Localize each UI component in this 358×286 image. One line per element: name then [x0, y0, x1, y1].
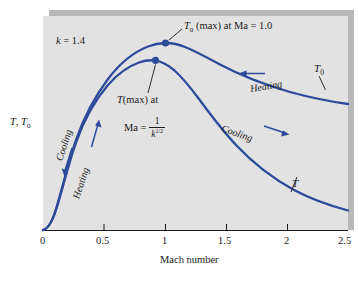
x-tick-label-0-5: 0.5	[96, 236, 109, 247]
annotation-T0-max: T0 (max) at Ma = 1.0	[184, 21, 272, 34]
parameter-k-label: k = 1.4	[56, 36, 85, 47]
annotation-Ma-equals: Ma =	[124, 122, 149, 133]
arrow-heating-subsonic	[92, 120, 102, 148]
annotation-T0-max-text: (max) at Ma = 1.0	[193, 20, 272, 31]
figure-rayleigh-line-temperature-chart: T, T0 k = 1.4 T0 (max) at Ma = 1.0 T(max…	[0, 0, 358, 286]
curve-stagnation-temperature-T0	[43, 43, 348, 230]
x-tick-label-0: 0	[40, 236, 45, 247]
x-tick-label-1: 1	[162, 236, 167, 247]
annotation-Ma-denominator-exponent: 1/2	[155, 128, 163, 134]
curve-static-temperature-T	[43, 60, 348, 230]
curve-label-T0: T0	[314, 63, 324, 77]
annotation-Ma-formula: Ma = 1k1/2	[124, 118, 165, 140]
annotation-Ma-fraction: 1k1/2	[149, 117, 165, 139]
y-axis-title-T0-sub: 0	[27, 122, 31, 130]
annotation-Ma-denominator: k1/2	[149, 127, 165, 140]
annotation-T-max-text: (max) at	[123, 94, 158, 105]
curve-label-T0-sub: 0	[320, 68, 324, 77]
plot-vector-layer	[0, 0, 358, 286]
x-tick-label-1-5: 1.5	[218, 236, 231, 247]
leader-T-max	[148, 65, 156, 94]
x-tick-label-2-5: 2.5	[338, 236, 351, 247]
x-axis-title: Mach number	[160, 255, 219, 266]
marker-T0-max	[162, 39, 169, 46]
parameter-k-value: = 1.4	[61, 35, 85, 46]
marker-T-max	[152, 57, 159, 64]
annotation-T-max: T(max) at	[117, 95, 158, 106]
leader-T0-max	[169, 29, 182, 40]
x-tick-label-2: 2	[284, 236, 289, 247]
y-axis-title: T, T0	[10, 117, 31, 130]
arrow-cooling-supersonic	[264, 126, 290, 136]
annotation-Ma-numerator: 1	[149, 117, 165, 127]
leader-curve-T0	[319, 76, 326, 90]
curve-label-T: T	[292, 178, 298, 189]
